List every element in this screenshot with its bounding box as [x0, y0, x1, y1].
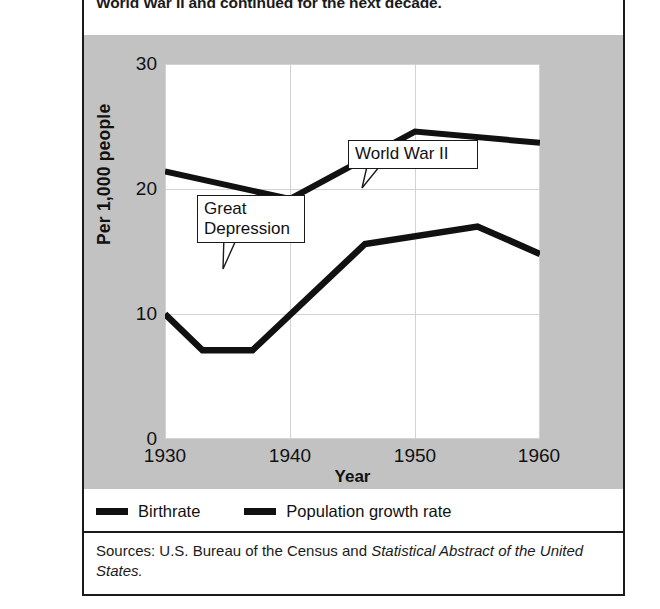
source-note: Sources: U.S. Bureau of the Census and S… — [96, 541, 608, 582]
legend-item-population-growth-rate: Population growth rate — [244, 502, 451, 521]
x-tick-label-1960: 1960 — [518, 445, 560, 467]
legend-swatch-population-growth-rate — [244, 508, 276, 515]
y-tick-label-20: 20 — [136, 178, 157, 200]
y-axis-title: Per 1,000 people — [94, 104, 115, 245]
figure-card: World War II and continued for the next … — [82, 0, 625, 596]
plot-lines — [165, 64, 540, 439]
chart-panel: Per 1,000 people 30 20 10 0 1930 1940 19… — [84, 35, 623, 489]
annotation-great-depression: Great Depression — [197, 195, 305, 243]
x-tick-label-1950: 1950 — [394, 445, 436, 467]
figure-intro-text: World War II and continued for the next … — [96, 0, 616, 12]
y-tick-label-30: 30 — [136, 53, 157, 75]
source-prefix: Sources: U.S. Bureau of the Census and — [96, 542, 371, 559]
legend-swatch-birthrate — [96, 508, 128, 515]
plot-area: 30 20 10 0 1930 1940 1950 1960 Great Dep… — [165, 64, 540, 439]
series-line-population-growth-rate — [165, 227, 540, 351]
x-tick-label-1940: 1940 — [269, 445, 311, 467]
legend-label-population-growth-rate: Population growth rate — [286, 502, 451, 521]
legend-item-birthrate: Birthrate — [96, 502, 200, 521]
y-tick-label-10: 10 — [136, 303, 157, 325]
annotation-world-war-ii: World War II — [348, 140, 478, 169]
source-divider — [84, 531, 623, 533]
chart-legend: Birthrate Population growth rate — [84, 489, 623, 533]
legend-label-birthrate: Birthrate — [138, 502, 200, 521]
x-axis-title: Year — [165, 467, 540, 487]
x-tick-label-1930: 1930 — [144, 445, 186, 467]
